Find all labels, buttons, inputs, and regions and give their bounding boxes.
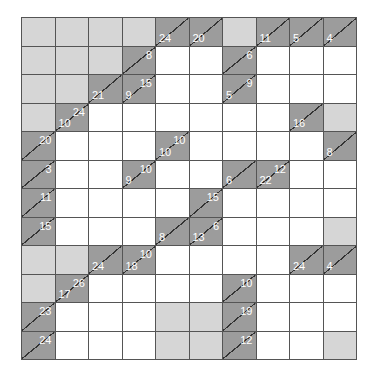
entry-cell[interactable] [156,75,189,103]
clue-cell: 24 [22,332,55,360]
entry-cell[interactable] [223,132,256,160]
entry-cell[interactable] [89,218,122,246]
entry-cell[interactable] [56,132,89,160]
entry-cell[interactable] [89,132,122,160]
entry-cell[interactable] [257,303,290,331]
entry-cell[interactable] [123,332,156,360]
entry-cell[interactable] [190,104,223,132]
across-clue-sum: 11 [40,192,51,203]
clue-cell: 4 [324,18,357,46]
entry-cell[interactable] [123,104,156,132]
entry-cell[interactable] [156,189,189,217]
entry-cell[interactable] [290,161,323,189]
entry-cell[interactable] [56,303,89,331]
entry-cell[interactable] [257,275,290,303]
entry-cell[interactable] [324,189,357,217]
entry-cell[interactable] [290,47,323,75]
entry-cell[interactable] [324,161,357,189]
blocked-cell [22,75,55,103]
entry-cell[interactable] [123,275,156,303]
entry-cell[interactable] [223,189,256,217]
across-clue-sum: 19 [240,306,252,317]
entry-cell[interactable] [324,275,357,303]
entry-cell[interactable] [290,332,323,360]
entry-cell[interactable] [56,218,89,246]
entry-cell[interactable] [190,47,223,75]
entry-cell[interactable] [156,246,189,274]
clue-cell: 20 [190,18,223,46]
clue-cell: 1018 [123,246,156,274]
entry-cell[interactable] [56,189,89,217]
across-clue-sum: 12 [274,164,286,175]
entry-cell[interactable] [324,75,357,103]
entry-cell[interactable] [324,303,357,331]
entry-cell[interactable] [156,275,189,303]
entry-cell[interactable] [123,132,156,160]
entry-cell[interactable] [123,189,156,217]
entry-cell[interactable] [190,275,223,303]
blocked-cell [324,104,357,132]
across-clue-sum: 15 [39,221,51,232]
entry-cell[interactable] [190,132,223,160]
blocked-cell [156,303,189,331]
down-clue-sum: 21 [92,90,104,101]
entry-cell[interactable] [223,104,256,132]
down-clue-sum: 4 [327,33,333,44]
entry-cell[interactable] [190,161,223,189]
entry-cell[interactable] [290,189,323,217]
entry-cell[interactable] [290,303,323,331]
entry-cell[interactable] [257,104,290,132]
entry-cell[interactable] [190,246,223,274]
clue-cell: 16 [290,104,323,132]
clue-cell: 11 [22,189,55,217]
clue-cell: 5 [290,18,323,46]
entry-cell[interactable] [290,75,323,103]
blocked-cell [22,246,55,274]
clue-cell: 19 [223,303,256,331]
entry-cell[interactable] [257,189,290,217]
blocked-cell [56,18,89,46]
entry-cell[interactable] [123,218,156,246]
clue-cell: 20 [22,132,55,160]
entry-cell[interactable] [290,132,323,160]
entry-cell[interactable] [190,75,223,103]
entry-cell[interactable] [257,246,290,274]
entry-cell[interactable] [156,161,189,189]
entry-cell[interactable] [89,189,122,217]
down-clue-sum: 18 [126,261,138,272]
entry-cell[interactable] [89,161,122,189]
across-clue-sum: 23 [39,306,51,317]
kakuro-grid: 2420115486211599524101620101083109612221… [21,17,357,360]
entry-cell[interactable] [89,275,122,303]
entry-cell[interactable] [257,75,290,103]
entry-cell[interactable] [156,104,189,132]
entry-cell[interactable] [223,218,256,246]
clue-cell: 159 [123,75,156,103]
entry-cell[interactable] [156,47,189,75]
across-clue-sum: 8 [146,50,152,61]
across-clue-sum: 24 [73,107,85,118]
entry-cell[interactable] [89,303,122,331]
clue-cell: 4 [324,246,357,274]
entry-cell[interactable] [257,218,290,246]
entry-cell[interactable] [56,161,89,189]
down-clue-sum: 20 [193,33,205,44]
entry-cell[interactable] [290,218,323,246]
entry-cell[interactable] [223,246,256,274]
clue-cell: 15 [22,218,55,246]
entry-cell[interactable] [290,275,323,303]
entry-cell[interactable] [257,332,290,360]
entry-cell[interactable] [89,332,122,360]
down-clue-sum: 11 [260,33,271,44]
down-clue-sum: 5 [226,90,232,101]
clue-cell: 2410 [56,104,89,132]
entry-cell[interactable] [89,104,122,132]
down-clue-sum: 13 [193,232,205,243]
clue-cell: 95 [223,75,256,103]
blocked-cell [56,75,89,103]
entry-cell[interactable] [257,132,290,160]
entry-cell[interactable] [56,332,89,360]
entry-cell[interactable] [123,303,156,331]
entry-cell[interactable] [324,47,357,75]
entry-cell[interactable] [257,47,290,75]
